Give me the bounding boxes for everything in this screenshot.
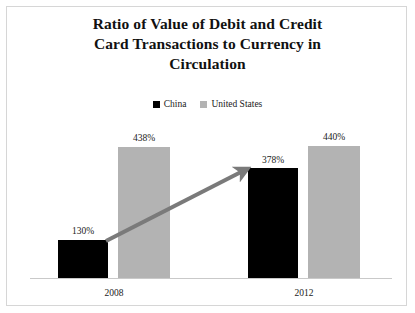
bar-united-states-2008 [118, 147, 170, 278]
bar-china-2008 [58, 240, 108, 278]
x-axis-label-2008: 2008 [58, 288, 170, 299]
chart-title-line-3: Circulation [40, 54, 375, 74]
legend-item-united-states[interactable]: United States [200, 99, 262, 109]
chart-title-line-2: Card Transactions to Currency in [40, 34, 375, 54]
value-label-united-states-2012: 440% [308, 132, 360, 143]
bar-united-states-2012 [308, 146, 360, 278]
legend-swatch-icon-china [153, 101, 160, 108]
legend-swatch-icon-united-states [200, 101, 207, 108]
legend-label-china: China [164, 99, 187, 109]
chart-title: Ratio of Value of Debit and Credit Card … [40, 14, 375, 74]
value-label-china-2012: 378% [248, 155, 298, 166]
legend-label-united-states: United States [211, 99, 262, 109]
value-label-china-2008: 130% [58, 226, 108, 237]
plot-area: Ratio of Value of Debit and Credit Card … [0, 0, 415, 313]
x-axis-line [30, 278, 392, 279]
bar-china-2012 [248, 168, 298, 278]
chart-legend: China United States [0, 99, 415, 109]
x-axis-label-2012: 2012 [248, 288, 360, 299]
value-label-united-states-2008: 438% [118, 133, 170, 144]
chart-screenshot: Ratio of Value of Debit and Credit Card … [0, 0, 415, 313]
legend-item-china[interactable]: China [153, 99, 187, 109]
chart-title-line-1: Ratio of Value of Debit and Credit [40, 14, 375, 34]
